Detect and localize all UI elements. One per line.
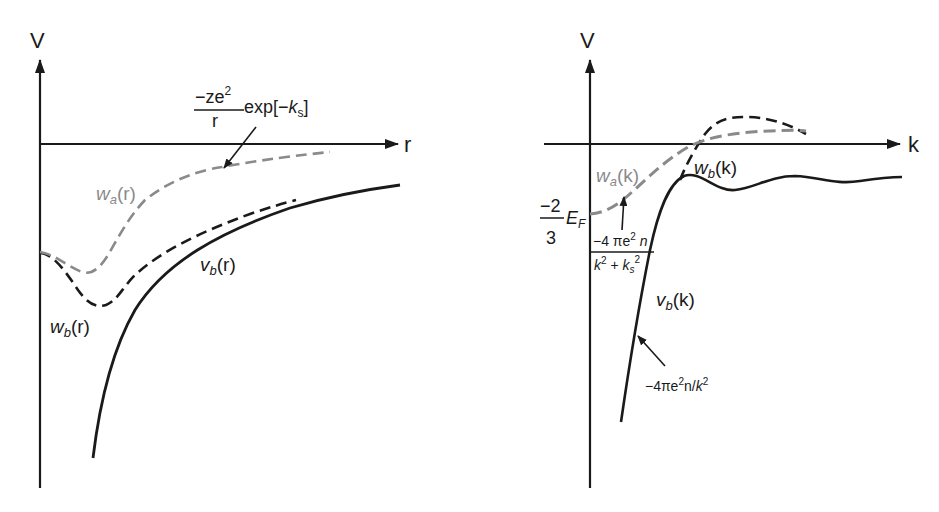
svg-text:−4 πe2n: −4 πe2n [593, 231, 648, 249]
left-x-axis-label: r [404, 132, 411, 157]
wa-r-curve [40, 152, 330, 273]
wb-k-label: wb(k) [694, 157, 737, 181]
right-x-axis-label: k [908, 132, 920, 157]
svg-text:−2: −2 [540, 196, 561, 216]
right-y-axis-label: V [580, 28, 595, 53]
svg-text:3: 3 [546, 228, 556, 248]
bare-pointer-arrow [638, 336, 665, 366]
wa-k-label: wa(k) [596, 165, 639, 189]
screened-coulomb-formula: −ze2 r exp[−ks] [194, 84, 309, 131]
svg-text:−ze2: −ze2 [195, 84, 232, 107]
vb-k-label: vb(k) [656, 289, 695, 313]
fermi-energy-label: −2 3 EF [540, 196, 586, 248]
svg-text:exp[−ks]: exp[−ks] [244, 97, 309, 120]
svg-text:k2 + ks2: k2 + ks2 [594, 254, 641, 275]
pseudopotential-figure: V r −ze2 r exp[−ks] wa(r) wb(r) vb(r) V … [0, 0, 939, 512]
screened-pointer-arrow [622, 197, 624, 230]
screened-form-factor-label: −4 πe2n k2 + ks2 [591, 231, 654, 275]
left-panel: V r −ze2 r exp[−ks] wa(r) wb(r) vb(r) [30, 28, 411, 488]
wb-r-label: wb(r) [50, 316, 90, 340]
vb-r-curve [93, 185, 400, 458]
left-y-axis-label: V [30, 28, 45, 53]
wb-r-curve [40, 200, 296, 306]
svg-text:EF: EF [566, 208, 586, 231]
right-panel: V k −2 3 EF −4 πe2n k2 + ks2 −4πe2n/k2 w… [540, 28, 920, 488]
bare-coulomb-label: −4πe2n/k2 [645, 376, 709, 394]
svg-text:r: r [212, 111, 218, 131]
wa-r-label: wa(r) [96, 183, 136, 207]
vb-r-label: vb(r) [200, 254, 236, 278]
